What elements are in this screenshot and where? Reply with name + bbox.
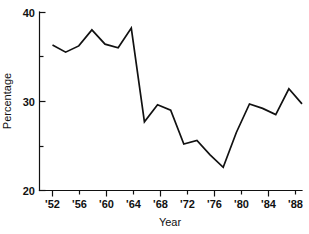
x-tick-label-1972: '72 <box>180 198 195 210</box>
x-axis-tick-labels: '52 '56 '60 '64 '68 '72 '76 '80 '84 '88 <box>45 198 303 210</box>
y-axis-ticks <box>40 13 46 191</box>
y-axis-title: Percentage <box>1 73 13 129</box>
x-axis-ticks <box>53 191 296 197</box>
chart-figure: 40 30 20 '52 '56 '60 '64 '68 '72 '76 '80… <box>0 0 309 234</box>
x-tick-label-1964: '64 <box>126 198 142 210</box>
x-tick-label-1976: '76 <box>207 198 222 210</box>
line-chart-svg: 40 30 20 '52 '56 '60 '64 '68 '72 '76 '80… <box>0 0 309 234</box>
x-tick-label-1968: '68 <box>153 198 168 210</box>
y-tick-label-30: 30 <box>23 96 35 108</box>
y-tick-label-40: 40 <box>23 7 35 19</box>
x-tick-label-1952: '52 <box>45 198 60 210</box>
x-tick-label-1956: '56 <box>72 198 87 210</box>
y-tick-label-20: 20 <box>23 185 35 197</box>
x-tick-label-1980: '80 <box>234 198 249 210</box>
data-series-line <box>53 28 303 167</box>
x-tick-label-1984: '84 <box>261 198 277 210</box>
y-axis-tick-labels: 40 30 20 <box>23 7 35 197</box>
x-axis-title: Year <box>159 216 182 228</box>
x-tick-label-1960: '60 <box>99 198 114 210</box>
x-tick-label-1988: '88 <box>288 198 303 210</box>
